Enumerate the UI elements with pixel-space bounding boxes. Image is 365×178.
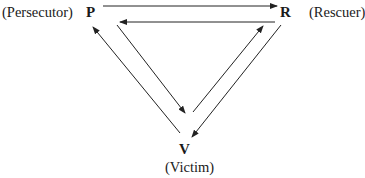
arrow-v-to-r — [193, 26, 263, 112]
scan-artifact — [2, 174, 32, 178]
arrow-v-to-p — [93, 27, 180, 133]
arrow-r-to-v — [192, 25, 281, 137]
